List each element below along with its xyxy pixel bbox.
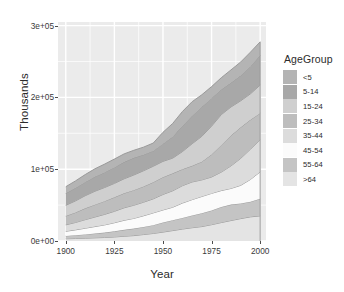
legend-key (283, 172, 297, 186)
legend-color-swatch (283, 158, 297, 172)
x-tick-label: 1950 (154, 246, 172, 256)
legend-item[interactable]: 45-54 (283, 143, 344, 158)
legend-items: <55-1415-2425-3435-4445-5455-64>64 (283, 70, 344, 187)
legend-item-label: >64 (303, 175, 316, 184)
legend-item[interactable]: 35-44 (283, 128, 344, 143)
legend-item-label: 35-44 (303, 131, 323, 140)
x-tick-mark (212, 241, 213, 244)
legend-item-label: 55-64 (303, 160, 323, 169)
stacked-area-chart: Thousands 0e+001e+052e+053e+05 190019251… (0, 0, 344, 292)
legend-color-swatch (283, 129, 297, 143)
legend-item[interactable]: 15-24 (283, 99, 344, 114)
legend-key (283, 129, 297, 143)
legend-color-swatch (283, 85, 297, 99)
legend-color-swatch (283, 114, 297, 128)
x-tick-label: 1900 (57, 246, 75, 256)
y-tick-label: 2e+05 (31, 92, 54, 102)
plot-area (58, 22, 266, 241)
legend-item-label: 25-34 (303, 117, 323, 126)
x-axis-title: Year (58, 268, 266, 280)
y-tick-mark (55, 169, 58, 170)
y-tick-mark (55, 97, 58, 98)
x-tick-mark (66, 241, 67, 244)
plot-panel (58, 22, 266, 241)
legend-key (283, 85, 297, 99)
legend-color-swatch (283, 143, 297, 157)
y-tick-label: 3e+05 (31, 21, 54, 31)
legend-item[interactable]: 25-34 (283, 114, 344, 129)
legend-title: AgeGroup (284, 53, 344, 65)
legend-key (283, 70, 297, 84)
legend-item-label: <5 (303, 73, 312, 82)
legend-item[interactable]: <5 (283, 70, 344, 85)
x-tick-label: 1925 (105, 246, 123, 256)
legend-item-label: 15-24 (303, 102, 323, 111)
legend-item[interactable]: >64 (283, 172, 344, 187)
x-tick-mark (163, 241, 164, 244)
legend-item-label: 5-14 (303, 87, 319, 96)
legend-key (283, 114, 297, 128)
y-tick-label: 1e+05 (31, 164, 54, 174)
x-tick-label: 2000 (251, 246, 269, 256)
legend-item[interactable]: 55-64 (283, 158, 344, 173)
y-tick-mark (55, 26, 58, 27)
x-tick-label: 1975 (202, 246, 220, 256)
legend: AgeGroup <55-1415-2425-3435-4445-5455-64… (283, 53, 344, 187)
legend-color-swatch (283, 70, 297, 84)
x-tick-mark (114, 241, 115, 244)
legend-color-swatch (283, 172, 297, 186)
legend-item-label: 45-54 (303, 146, 323, 155)
legend-key (283, 143, 297, 157)
y-tick-mark (55, 241, 58, 242)
y-axis-ticks: 0e+001e+052e+053e+05 (0, 0, 54, 292)
x-tick-mark (260, 241, 261, 244)
legend-color-swatch (283, 99, 297, 113)
legend-item[interactable]: 5-14 (283, 85, 344, 100)
y-tick-label: 0e+00 (31, 236, 54, 246)
legend-key (283, 158, 297, 172)
legend-key (283, 99, 297, 113)
